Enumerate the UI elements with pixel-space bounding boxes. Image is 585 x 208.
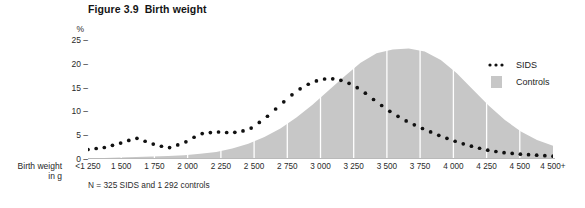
y-axis-unit-label: % [76, 24, 84, 34]
x-axis-tick-7: 3 000 [310, 162, 331, 171]
x-axis-tick-12: 4 250 [476, 162, 497, 171]
y-axis: % 0 –5 –10 –15 –20 –25 – [52, 24, 88, 164]
x-axis-tick-10: 3 750 [410, 162, 431, 171]
y-axis-tick-10: 10 – [71, 106, 88, 116]
x-axis-tick-8: 3 250 [343, 162, 364, 171]
x-axis: <1 2501 5001 7502 0002 2502 5002 7503 00… [60, 162, 580, 176]
chart-canvas [88, 40, 553, 159]
plot-area [88, 40, 553, 159]
x-axis-title-line2: in g [0, 171, 62, 181]
y-axis-tick-15: 15 – [71, 83, 88, 93]
x-axis-tick-5: 2 500 [244, 162, 265, 171]
x-axis-tick-11: 4 000 [443, 162, 464, 171]
legend-label-sids: SIDS [516, 60, 537, 70]
chart-title: Figure 3.9 Birth weight [88, 3, 207, 15]
gray-box-icon [487, 76, 509, 88]
chart-legend: SIDS Controls [487, 56, 582, 90]
legend-item-sids: SIDS [487, 56, 582, 73]
x-axis-tick-6: 2 750 [277, 162, 298, 171]
x-axis-tick-1: 1 500 [111, 162, 132, 171]
x-axis-tick-3: 2 000 [177, 162, 198, 171]
x-axis-tick-2: 1 750 [144, 162, 165, 171]
y-axis-tick-5: 5 – [76, 130, 88, 140]
x-axis-tick-9: 3 500 [377, 162, 398, 171]
y-axis-tick-25: 25 – [71, 35, 88, 45]
legend-item-controls: Controls [487, 73, 582, 90]
x-axis-tick-4: 2 250 [211, 162, 232, 171]
sample-size-note: N = 325 SIDS and 1 292 controls [88, 180, 210, 190]
x-axis-tick-13: 4 500 [510, 162, 531, 171]
x-axis-tick-0: <1 250 [75, 162, 100, 171]
legend-label-controls: Controls [516, 77, 550, 87]
x-axis-baseline [88, 158, 555, 159]
x-axis-title: Birth weight in g [0, 161, 62, 181]
x-axis-tick-14: 4 500+ [540, 162, 565, 171]
y-axis-tick-20: 20 – [71, 59, 88, 69]
dotted-line-icon [487, 59, 509, 71]
x-axis-title-line1: Birth weight [0, 161, 62, 171]
